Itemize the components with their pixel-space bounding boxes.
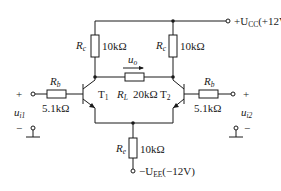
left-rc-label: Rc: [75, 39, 87, 53]
re-value: 10kΩ: [140, 143, 165, 155]
re-resistor: [129, 138, 137, 158]
right-rb-resistor: [199, 90, 218, 98]
vcc-terminal: [226, 19, 230, 23]
ground-icon: [229, 130, 243, 137]
vee-terminal: [131, 169, 135, 173]
input2-ground-terminal: [234, 126, 238, 130]
t1-emitter: [83, 99, 95, 123]
t2-emitter: [173, 99, 184, 123]
input1-plus: +: [16, 88, 22, 100]
ground-icon: [26, 130, 40, 137]
left-rb-resistor: [47, 90, 66, 98]
output-label: uo: [128, 53, 138, 67]
vcc-label: +UCC(+12V): [234, 15, 281, 29]
right-rc-value: 10kΩ: [180, 40, 205, 52]
rl-value: 20kΩ: [133, 88, 158, 100]
right-rb-value: 5.1kΩ: [194, 102, 221, 114]
input2-plus: +: [243, 88, 249, 100]
left-rb-value: 5.1kΩ: [42, 102, 69, 114]
input1-label: ui1: [14, 106, 25, 120]
right-rc-resistor: [169, 35, 177, 57]
t2-label: T2: [160, 88, 171, 102]
differential-amplifier-circuit: +UCC(+12V) Rc 10kΩ Rc 10kΩ uo RL 20kΩ T1…: [0, 0, 281, 191]
input1-ground-terminal: [31, 126, 35, 130]
left-rc-resistor: [91, 35, 99, 57]
left-rb-label: Rb: [49, 75, 61, 89]
vee-label: −UEE(−12V): [139, 165, 195, 179]
rl-label: RL: [116, 88, 128, 102]
right-rc-label: Rc: [155, 39, 167, 53]
t2-collector: [173, 77, 184, 89]
input2-minus: −: [244, 122, 250, 134]
t1-collector: [83, 77, 95, 89]
re-label: Re: [115, 142, 127, 156]
rl-resistor: [125, 73, 144, 81]
input1-terminal: [31, 92, 35, 96]
right-rb-label: Rb: [203, 75, 215, 89]
input2-terminal: [231, 92, 235, 96]
input2-label: ui2: [241, 106, 253, 120]
input1-minus: −: [16, 122, 22, 134]
output-arrowhead: [139, 66, 144, 70]
t1-label: T1: [98, 88, 109, 102]
left-rc-value: 10kΩ: [102, 40, 127, 52]
